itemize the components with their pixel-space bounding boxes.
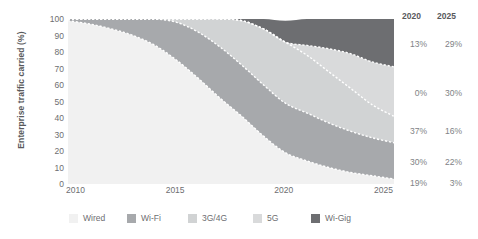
y-axis-tick-label: 50	[40, 98, 64, 107]
column-header-2020: 2020	[402, 11, 421, 21]
value-2020-wi-gig: 13%	[398, 39, 427, 49]
legend-item-wired[interactable]: Wired	[69, 211, 105, 225]
legend-item-3g-4g[interactable]: 3G/4G	[188, 211, 227, 225]
legend-label: 5G	[267, 214, 278, 223]
chart-legend: WiredWi-Fi3G/4G5GWi-Gig	[0, 211, 478, 229]
y-axis-tick-label: 10	[40, 164, 64, 173]
right-value-columns: 2020 2025 13%29%0%30%37%16%30%22%19%3%	[398, 0, 478, 200]
value-2020-wi-fi: 30%	[398, 157, 427, 167]
value-2025-wi-gig: 29%	[433, 39, 462, 49]
y-axis-tick-label: 40	[40, 114, 64, 123]
y-axis-tick-label: 100	[40, 15, 64, 24]
y-axis-tick-label: 60	[40, 81, 64, 90]
legend-swatch-icon	[127, 214, 136, 223]
value-2025-wi-fi: 22%	[433, 157, 462, 167]
legend-label: Wi-Gig	[325, 214, 351, 223]
legend-swatch-icon	[311, 214, 320, 223]
x-axis-tick-label: 2010	[66, 186, 85, 195]
legend-swatch-icon	[69, 214, 78, 223]
value-2020-3g-4g: 37%	[398, 126, 427, 136]
y-axis-tick-label: 70	[40, 65, 64, 74]
value-2025-wired: 3%	[433, 178, 462, 188]
legend-swatch-icon	[188, 214, 197, 223]
x-axis-tick-label: 2020	[274, 186, 293, 195]
value-2025-3g-4g: 16%	[433, 126, 462, 136]
legend-item-5g[interactable]: 5G	[253, 211, 278, 225]
y-axis-tick-label: 20	[40, 147, 64, 156]
column-header-2025: 2025	[437, 11, 456, 21]
legend-swatch-icon	[253, 214, 262, 223]
value-2020-wired: 19%	[398, 178, 427, 188]
value-2025-5g: 30%	[433, 88, 462, 98]
plot-area	[68, 19, 394, 184]
legend-label: Wired	[83, 214, 105, 223]
x-axis-tick-label: 2015	[166, 186, 185, 195]
legend-label: 3G/4G	[202, 214, 227, 223]
legend-item-wi-fi[interactable]: Wi-Fi	[127, 211, 161, 225]
y-axis-tick-label: 30	[40, 131, 64, 140]
y-axis-tick-label: 80	[40, 48, 64, 57]
legend-label: Wi-Fi	[141, 214, 161, 223]
x-axis-tick-label: 2025	[374, 186, 393, 195]
value-2020-5g: 0%	[398, 88, 427, 98]
y-axis-tick-label: 90	[40, 32, 64, 41]
area-series-svg	[68, 19, 394, 184]
stacked-area-chart: Enterprise traffic carried (%) 100908070…	[0, 0, 478, 239]
legend-item-wi-gig[interactable]: Wi-Gig	[311, 211, 351, 225]
y-axis-title: Enterprise traffic carried (%)	[12, 0, 30, 188]
y-axis-tick-labels: 1009080706050403020100	[36, 0, 64, 239]
